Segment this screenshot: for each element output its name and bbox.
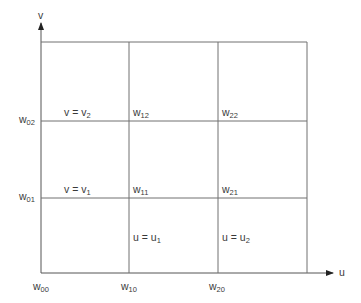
label-v-equals-v2: v = v2 — [64, 107, 91, 120]
v-axis-label: v — [38, 10, 43, 21]
label-w01: w01 — [19, 191, 35, 204]
label-w21: w21 — [222, 184, 238, 197]
u-axis-label: u — [339, 267, 345, 278]
label-w10: w10 — [121, 281, 137, 294]
label-w11: w11 — [133, 184, 148, 197]
label-w00: w00 — [33, 281, 49, 294]
label-u-equals-u1: u = u1 — [133, 232, 161, 245]
label-w02: w02 — [19, 114, 35, 127]
label-w12: w12 — [133, 107, 149, 120]
label-u-equals-u2: u = u2 — [222, 232, 250, 245]
label-w22: w22 — [222, 107, 238, 120]
grid-diagram — [0, 0, 361, 303]
label-v-equals-v1: v = v1 — [64, 184, 91, 197]
label-w20: w20 — [209, 281, 225, 294]
